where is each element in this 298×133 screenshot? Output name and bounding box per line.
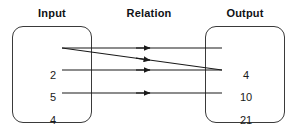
input-element-0: 2 (13, 69, 93, 81)
output-element-2: 21 (206, 114, 286, 126)
mapping-arrowhead (136, 58, 150, 60)
input-element-2: 4 (13, 114, 93, 126)
input-set-box: 2 5 4 (12, 26, 92, 123)
column-header-output: Output (205, 7, 285, 19)
output-element-0: 4 (206, 69, 286, 81)
input-element-1: 5 (13, 91, 93, 103)
column-header-relation: Relation (104, 7, 194, 19)
column-header-input: Input (12, 7, 92, 19)
output-set-box: 4 10 21 (205, 26, 285, 123)
output-element-1: 10 (206, 91, 286, 103)
relation-mapping-diagram: Input Relation Output 2 5 4 4 10 21 (0, 0, 298, 133)
